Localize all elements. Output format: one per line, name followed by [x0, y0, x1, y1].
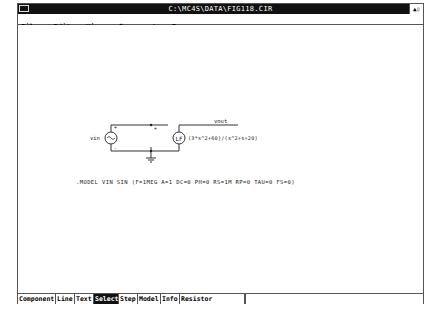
source-label: vin	[90, 135, 100, 141]
mode-model-button[interactable]: Model	[138, 294, 161, 304]
mode-select-button[interactable]: Select	[94, 294, 119, 304]
lf-label: LF	[175, 135, 183, 142]
window-title: C:\MC4S\DATA\FIG118.CIR	[18, 4, 423, 14]
circuit-diagram: LF vin + - + vout (3*s^2+60)/(s^2+s+20)	[18, 25, 423, 293]
mode-step-button[interactable]: Step	[119, 294, 138, 304]
lf-expression: (3*s^2+60)/(s^2+s+20)	[188, 135, 258, 141]
status-field[interactable]	[245, 294, 423, 304]
mode-text-button[interactable]: Text	[75, 294, 94, 304]
output-node-label: vout	[214, 118, 227, 124]
menu-bar: File Edit View Component Run	[18, 14, 423, 25]
mode-line-button[interactable]: Line	[56, 294, 75, 304]
maximize-icon: ▲▯	[413, 5, 420, 12]
app-window: C:\MC4S\DATA\FIG118.CIR ▲▯ File Edit Vie…	[17, 3, 424, 304]
source-plus: +	[114, 124, 117, 130]
model-statement[interactable]: .MODEL VIN SIN (F=1MEG A=1 DC=0 PH=0 RS=…	[76, 179, 295, 185]
mode-component-button[interactable]: Component	[18, 294, 56, 304]
component-type-button[interactable]: Resistor	[180, 294, 245, 304]
node-plus: +	[154, 125, 157, 131]
maximize-button[interactable]: ▲▯	[409, 4, 423, 14]
title-bar[interactable]: C:\MC4S\DATA\FIG118.CIR ▲▯	[18, 4, 423, 14]
mode-info-button[interactable]: Info	[161, 294, 180, 304]
source-minus: -	[114, 145, 117, 151]
mode-toolbar: Component Line Text Select Step Model In…	[18, 293, 423, 304]
schematic-canvas[interactable]: LF vin + - + vout (3*s^2+60)/(s^2+s+20) …	[18, 25, 423, 293]
